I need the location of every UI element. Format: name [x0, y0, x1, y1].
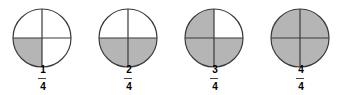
fraction-bar	[210, 78, 218, 79]
denominator: 4	[172, 81, 258, 92]
denominator: 4	[86, 81, 172, 92]
denominator: 4	[258, 81, 344, 92]
fraction-bar	[296, 78, 304, 79]
fraction-figure-1: 1 4	[0, 0, 86, 95]
circle-one-fourth	[0, 0, 86, 70]
denominator: 4	[0, 81, 86, 92]
circle-three-fourths	[172, 0, 258, 70]
fraction-bar	[38, 78, 46, 79]
numerator: 1	[0, 64, 86, 75]
fraction-figure-2: 2 4	[86, 0, 172, 95]
fraction-bar	[124, 78, 132, 79]
fraction-figure-3: 3 4	[172, 0, 258, 95]
numerator: 2	[86, 64, 172, 75]
numerator: 3	[172, 64, 258, 75]
circle-four-fourths	[258, 0, 344, 70]
circle-two-fourths	[86, 0, 172, 70]
fraction-figure-4: 4 4	[258, 0, 344, 95]
numerator: 4	[258, 64, 344, 75]
